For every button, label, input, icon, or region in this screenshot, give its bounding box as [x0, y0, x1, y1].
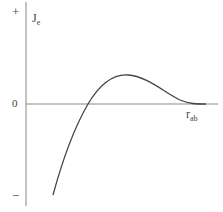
y-axis-label-subscript: e [37, 18, 41, 27]
energy-curve-diagram [0, 0, 223, 212]
plus-sign: + [12, 5, 19, 18]
exchange-integral-curve [53, 75, 206, 195]
x-axis-label: rab [186, 108, 198, 123]
zero-label: 0 [12, 98, 18, 109]
minus-sign: − [12, 189, 19, 202]
x-axis-label-subscript: ab [190, 114, 198, 123]
y-axis-label: Je [32, 12, 40, 27]
